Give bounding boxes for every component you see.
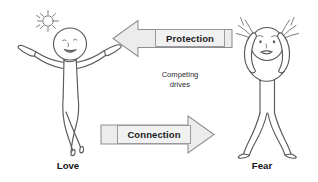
fear-torso [260,80,275,114]
love-torso [63,59,78,96]
fear-legs [238,113,296,158]
sun-icon [37,11,59,32]
fear-figure [236,18,299,159]
competing-drives-note: Competing drives [140,70,220,90]
love-caption: Love [38,160,98,171]
fear-caption: Fear [232,160,292,171]
diagram-canvas [0,0,318,182]
love-legs [63,96,84,156]
fear-head [251,28,284,61]
connection-arrow-label: Connection [117,125,191,144]
protection-arrow-label: Protection [155,29,225,47]
love-head [54,28,87,60]
competing-drives-line1: Competing [140,70,220,80]
competing-drives-line2: drives [140,80,220,90]
